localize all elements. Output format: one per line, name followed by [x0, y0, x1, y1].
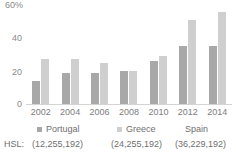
bar[interactable]	[150, 61, 158, 104]
hsl-row-label: HSL:	[4, 139, 24, 150]
bar[interactable]	[159, 56, 167, 104]
x-tick-label: 2010	[144, 107, 173, 118]
hsl-values-row: HSL: (12,255,192) (24,255,192) (36,229,1…	[0, 139, 236, 153]
x-tick-label: 2002	[26, 107, 55, 118]
chart-legend: Portugal Greece Spain	[0, 124, 236, 138]
legend-item-greece[interactable]: Greece	[117, 124, 156, 135]
bar[interactable]	[120, 71, 128, 104]
x-tick-label: 2008	[114, 107, 143, 118]
bar-group	[144, 5, 173, 104]
y-tick-label-0: 0	[17, 100, 22, 109]
y-axis-labels: 60% 40 20 0	[0, 0, 24, 110]
bar-group	[203, 5, 232, 104]
hsl-value-greece: (24,255,192)	[111, 139, 162, 150]
legend-swatch-icon	[176, 127, 181, 132]
legend-swatch-icon	[37, 127, 42, 132]
y-tick-label-60: 60%	[5, 1, 23, 10]
bar[interactable]	[71, 59, 79, 104]
bar-group	[85, 5, 114, 104]
bar-group	[26, 5, 55, 104]
y-tick-label-40: 40	[12, 34, 22, 43]
bar[interactable]	[62, 73, 70, 104]
legend-item-spain[interactable]: Spain	[176, 124, 208, 135]
bar[interactable]	[209, 46, 217, 104]
legend-item-portugal[interactable]: Portugal	[37, 124, 80, 135]
legend-label: Spain	[185, 124, 208, 135]
bar-chart: 60% 40 20 0 2002200420062008201020122014…	[0, 0, 236, 163]
x-axis-labels: 2002200420062008201020122014	[26, 107, 232, 118]
x-tick-label: 2004	[55, 107, 84, 118]
legend-swatch-icon	[117, 127, 122, 132]
bar[interactable]	[129, 71, 137, 104]
bar[interactable]	[218, 12, 226, 104]
plot-area	[26, 5, 232, 104]
bar-group	[55, 5, 84, 104]
x-tick-label: 2012	[173, 107, 202, 118]
bar-group	[173, 5, 202, 104]
bar[interactable]	[179, 46, 187, 104]
hsl-value-spain: (36,229,192)	[175, 139, 226, 150]
bar[interactable]	[41, 59, 49, 104]
x-tick-label: 2006	[85, 107, 114, 118]
legend-label: Greece	[126, 124, 156, 135]
bar[interactable]	[91, 73, 99, 104]
legend-label: Portugal	[46, 124, 80, 135]
bar[interactable]	[188, 20, 196, 104]
bar[interactable]	[32, 81, 40, 104]
y-tick-label-20: 20	[12, 68, 22, 77]
hsl-value-portugal: (12,255,192)	[32, 139, 83, 150]
bar-group	[114, 5, 143, 104]
bar[interactable]	[100, 63, 108, 104]
x-tick-label: 2014	[203, 107, 232, 118]
x-axis-line	[26, 104, 232, 105]
